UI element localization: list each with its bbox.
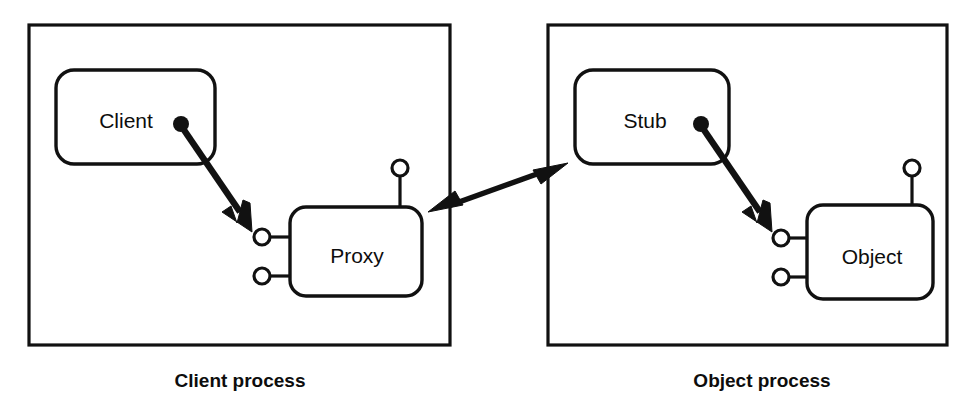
client-process-caption: Client process (175, 370, 306, 391)
client-to-proxy-arrow-ball (173, 116, 189, 132)
proxy-stub-link-line (448, 170, 548, 206)
proxy-stub-diagram: Client process Object process Client Pro… (0, 0, 978, 402)
diagram-canvas: Client process Object process Client Pro… (0, 0, 978, 402)
object-top-interface-circle[interactable] (904, 160, 920, 176)
client-component[interactable]: Client (56, 70, 215, 164)
object-box-label: Object (842, 245, 903, 268)
stub-to-object-arrow-ball (693, 116, 709, 132)
stub-component[interactable]: Stub (575, 70, 729, 164)
proxy-left-lower-interface-circle[interactable] (254, 268, 270, 284)
object-left-upper-interface-circle[interactable] (773, 230, 789, 246)
proxy-top-interface-circle[interactable] (392, 160, 408, 176)
stub-box-label: Stub (623, 109, 666, 132)
client-box-label: Client (99, 109, 153, 132)
proxy-box-label: Proxy (330, 244, 384, 267)
object-component[interactable]: Object (807, 205, 933, 299)
proxy-left-upper-interface-circle[interactable] (254, 229, 270, 245)
object-process-caption: Object process (693, 370, 830, 391)
proxy-component[interactable]: Proxy (290, 207, 422, 296)
object-left-lower-interface-circle[interactable] (773, 269, 789, 285)
